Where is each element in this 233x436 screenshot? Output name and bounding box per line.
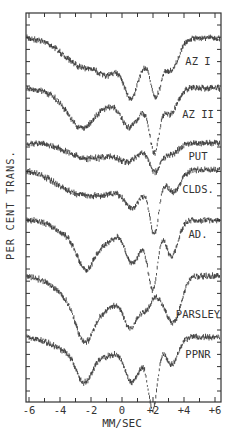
series-labels: AZ IAZ IIPUTCLDS.AD.PARSLEYPPNR [176,55,221,360]
x-tick-label: +4 [178,404,191,416]
spectrum-trace [27,84,220,155]
x-tick-label: +6 [209,404,222,416]
x-tick-label: -4 [54,404,67,416]
series-label: PPNR [185,348,211,360]
spectrum-trace [27,35,220,102]
series-label: PARSLEY [176,308,221,320]
series-label: AD. [189,228,208,240]
y-axis-label: PER CENT TRANS. [4,150,16,260]
plot-frame [26,13,221,402]
spectrum-trace [27,334,220,413]
series-label: AZ II [182,108,214,120]
mossbauer-spectra-chart: -6-4-20+2+4+6 AZ IAZ IIPUTCLDS.AD.PARSLE… [0,0,233,436]
axis-ticks [26,13,221,402]
x-tick-label: -2 [85,404,98,416]
x-tick-label: -6 [23,404,36,416]
series-label: PUT [189,150,209,162]
series-label: AZ I [185,55,210,67]
series-label: CLDS. [182,183,214,195]
x-tick-label: 0 [119,404,125,416]
x-axis-label: MM/SEC [102,417,142,430]
spectrum-trace [27,167,220,235]
x-tick-labels: -6-4-20+2+4+6 [23,404,222,416]
